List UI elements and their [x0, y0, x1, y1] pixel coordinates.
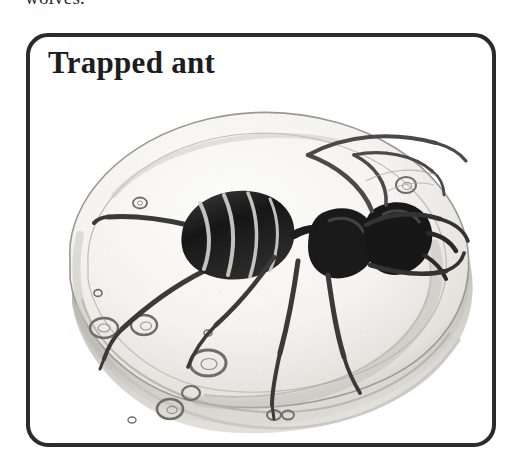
figure-frame: Trapped ant	[26, 33, 496, 447]
amber-ant-illustration	[36, 85, 492, 441]
cut-off-body-text: wolves.	[25, 0, 225, 11]
cut-off-body-text-label: wolves.	[25, 0, 225, 9]
figure-title: Trapped ant	[48, 43, 215, 83]
scanned-book-page: wolves. Trapped ant	[0, 0, 523, 467]
